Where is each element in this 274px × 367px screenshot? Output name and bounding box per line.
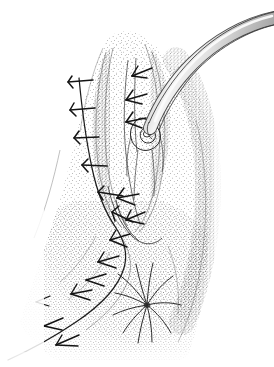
right-edge-fade (214, 120, 274, 367)
surgical-illustration-figure: Surgical illustration: transurethral cat… (0, 0, 274, 367)
anal-verge-shading (117, 275, 177, 335)
illustration-canvas (0, 0, 274, 367)
left-edge-fade (0, 0, 44, 367)
